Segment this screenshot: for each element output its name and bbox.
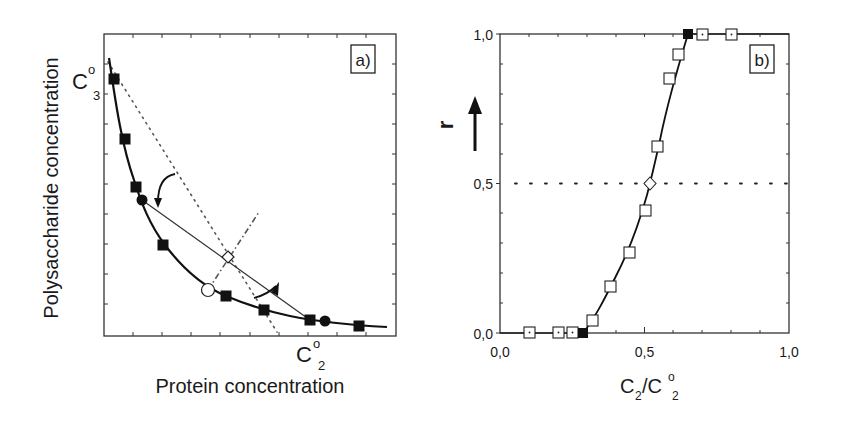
up-arrow-icon	[468, 96, 482, 114]
panel-b-xlabel-slash: /C	[642, 375, 662, 397]
panel-a-x-ticks	[133, 34, 366, 336]
binodal-curve	[109, 58, 387, 327]
panel-a-filled-squares	[109, 74, 365, 332]
c3-label-sub: 3	[93, 88, 100, 103]
xtick-1: 1,0	[779, 344, 799, 360]
panel-b-midpoint	[644, 177, 656, 190]
panel-b-label: b)	[754, 51, 769, 70]
c2-label-sup: o	[313, 336, 320, 351]
tie-end-left	[137, 195, 148, 206]
panel-a-frame	[104, 34, 396, 336]
panel-b-filled-square-high	[683, 29, 693, 39]
critical-point	[202, 284, 215, 297]
dilution-line	[108, 62, 277, 332]
ytick-05: 0,5	[474, 176, 494, 192]
curved-arrow-upper	[158, 174, 175, 202]
tie-end-right	[320, 316, 331, 327]
xtick-05: 0,5	[635, 344, 655, 360]
panel-b-xlabel-sub1: 2	[635, 389, 642, 403]
ytick-0: 0,0	[474, 326, 494, 342]
c2-label-main: C	[296, 342, 312, 367]
panel-b: b) 1,0 0,5 0,0 0,0 0,5 1,0 r C 2 /C o 2	[433, 27, 799, 403]
panel-b-xlabel-c: C	[620, 375, 634, 397]
xtick-0: 0,0	[490, 344, 510, 360]
panel-a-ylabel: Polysaccharide concentration	[40, 57, 62, 318]
c3-label-sup: o	[88, 62, 95, 77]
ytick-1: 1,0	[474, 27, 494, 43]
panel-b-xlabel-sub2: 2	[672, 389, 679, 403]
figure: a) C o 3 C o 2 Protein concentration Pol…	[0, 0, 842, 422]
panel-a-y-ticks	[104, 64, 396, 304]
panel-b-open-squares	[524, 29, 737, 338]
panel-a-xlabel: Protein concentration	[155, 375, 344, 397]
panel-a: a) C o 3 C o 2 Protein concentration Pol…	[40, 34, 396, 397]
c3-label-main: C	[72, 69, 88, 94]
c2-label-sub: 2	[318, 358, 325, 373]
panel-b-ylabel: r	[433, 120, 458, 129]
panel-b-filled-square-low	[578, 328, 588, 338]
panel-b-xlabel-sup2: o	[668, 370, 675, 384]
panel-a-label: a)	[355, 51, 370, 70]
arrowhead-upper-icon	[154, 198, 162, 208]
panel-b-y-ticks	[496, 34, 789, 333]
